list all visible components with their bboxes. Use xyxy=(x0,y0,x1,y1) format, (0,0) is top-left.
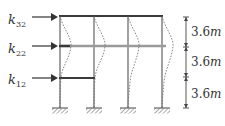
stiffness-label-k32: k32 xyxy=(8,12,26,29)
columns xyxy=(60,16,162,108)
fixed-supports xyxy=(52,108,170,114)
dimension-label-story-2: 3.6m xyxy=(191,55,221,69)
mode-shape-curves xyxy=(60,16,173,108)
stiffness-label-k22: k22 xyxy=(8,41,26,58)
stiffness-label-k12: k12 xyxy=(8,72,26,89)
arrow-icon xyxy=(32,13,58,21)
fixed-support-icon xyxy=(120,108,136,114)
fixed-support-icon xyxy=(154,108,170,114)
svg-text:k12: k12 xyxy=(8,72,26,89)
frame-diagram: k32 k22 k12 xyxy=(0,0,225,126)
dimension-label-story-1: 3.6m xyxy=(191,87,221,101)
arrow-icon xyxy=(32,74,58,82)
fixed-support-icon xyxy=(52,108,68,114)
svg-text:k22: k22 xyxy=(8,41,26,58)
dimension-line xyxy=(183,17,189,108)
arrow-icon xyxy=(32,42,58,50)
svg-text:k32: k32 xyxy=(8,12,26,29)
fixed-support-icon xyxy=(86,108,102,114)
dimension-label-story-3: 3.6m xyxy=(191,25,221,39)
